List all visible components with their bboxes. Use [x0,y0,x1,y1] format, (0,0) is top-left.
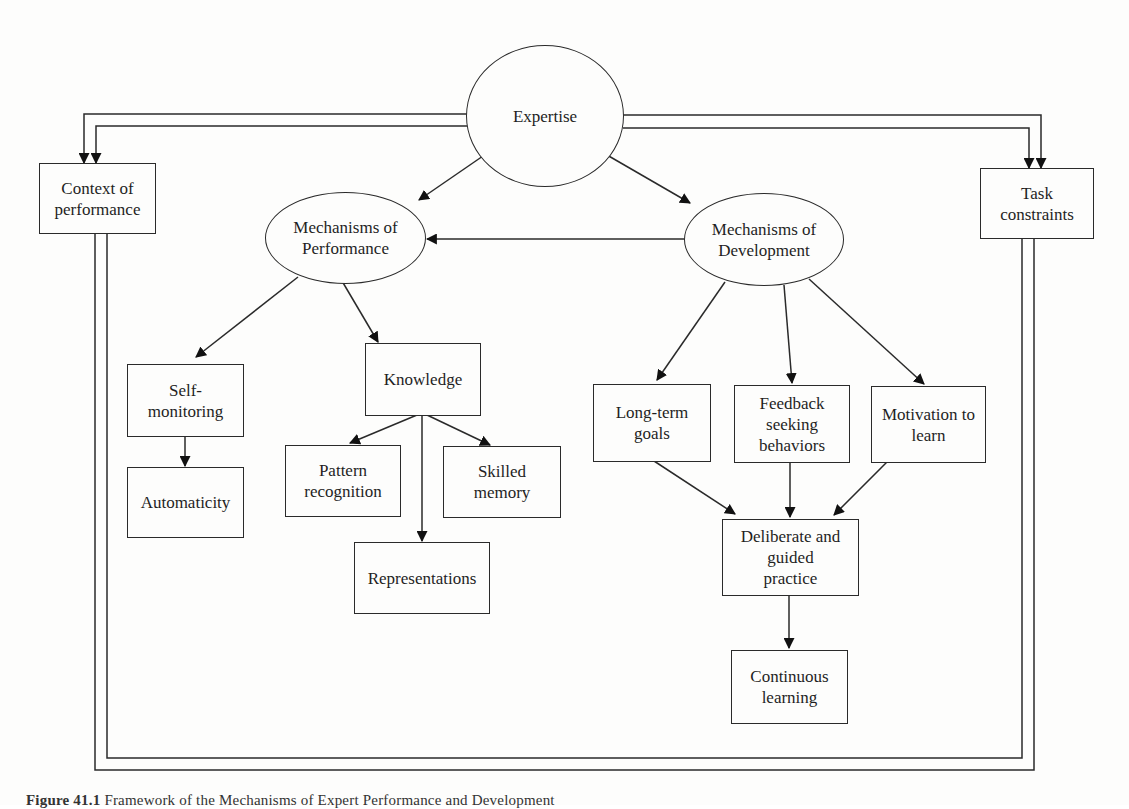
node-mechanisms-of-development: Mechanisms of Development [684,193,844,286]
node-automaticity: Automaticity [127,467,244,538]
node-feedback-seeking-behaviors: Feedback seeking behaviors [734,385,850,463]
node-pattern-recognition: Pattern recognition [285,445,401,517]
node-skilled-memory: Skilled memory [443,446,561,518]
node-long-term-goals-label: Long-term goals [616,402,689,444]
frame-line-inner [107,233,1022,758]
node-knowledge: Knowledge [365,343,481,416]
node-context-of-performance: Context of performance [39,163,156,234]
expertise-to-task-line-outer [623,115,1041,168]
node-expertise: Expertise [466,45,624,187]
node-long-term-goals: Long-term goals [593,384,711,462]
node-task-constraints: Task constraints [980,168,1094,239]
node-expertise-label: Expertise [513,106,577,127]
node-motivation-to-learn: Motivation to learn [871,386,986,463]
node-continuous-learning: Continuous learning [731,650,848,724]
node-knowledge-label: Knowledge [384,369,462,390]
expertise-to-task-line-inner [623,128,1029,168]
figure-caption: Figure 41.1 Framework of the Mechanisms … [26,792,555,809]
node-motivation-to-learn-label: Motivation to learn [882,404,975,446]
node-deliberate-guided-practice: Deliberate and guided practice [722,519,859,596]
node-context-of-performance-label: Context of performance [55,178,141,220]
expertise-to-context-line-inner [96,126,467,163]
node-task-constraints-label: Task constraints [1000,183,1074,225]
node-mechanisms-of-performance: Mechanisms of Performance [265,192,426,284]
node-deliberate-guided-practice-label: Deliberate and guided practice [741,526,841,589]
node-continuous-learning-label: Continuous learning [750,666,828,708]
node-mechanisms-of-development-label: Mechanisms of Development [712,219,816,261]
node-skilled-memory-label: Skilled memory [474,461,531,503]
node-feedback-seeking-behaviors-label: Feedback seeking behaviors [759,393,825,456]
node-pattern-recognition-label: Pattern recognition [304,460,381,502]
node-representations: Representations [354,542,490,614]
node-self-monitoring: Self- monitoring [127,364,244,437]
figure-caption-text: Framework of the Mechanisms of Expert Pe… [104,792,554,808]
node-automaticity-label: Automaticity [141,492,231,513]
node-mechanisms-of-performance-label: Mechanisms of Performance [293,217,397,259]
node-self-monitoring-label: Self- monitoring [148,380,224,422]
node-representations-label: Representations [368,568,477,589]
figure-caption-label: Figure 41.1 [26,792,100,808]
expertise-to-context-line-outer [84,114,467,163]
